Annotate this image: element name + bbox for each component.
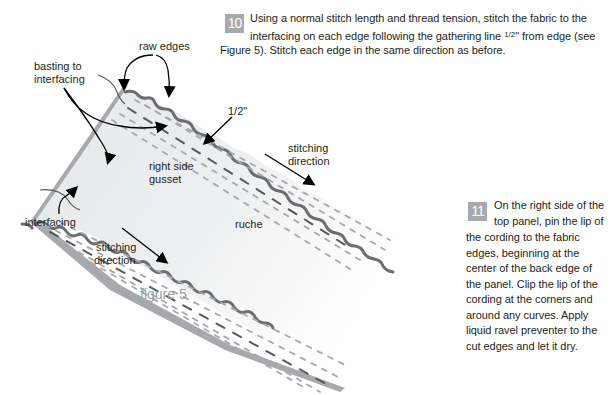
figure-caption: figure 5 (140, 286, 187, 302)
label-basting-line-2: interfacing (34, 73, 85, 85)
label-basting-line-1: basting to (34, 60, 82, 72)
label-half-inch: 1/2" (228, 105, 247, 117)
label-right-side: right side (149, 160, 194, 172)
basting-lead-line-top (98, 75, 125, 104)
figure-5-illustration: raw edges basting to interfacing 1/2" ri… (0, 0, 615, 395)
label-stitching-top-1: stitching (288, 142, 328, 154)
raw-edges-arrow-right (156, 55, 169, 95)
label-stitching-top-2: direction (288, 155, 330, 167)
raw-edges-arrow-left (124, 55, 153, 88)
label-raw-edges: raw edges (139, 40, 190, 52)
label-gusset: gusset (149, 173, 181, 185)
label-ruche: ruche (235, 218, 263, 230)
label-interfacing: interfacing (25, 216, 76, 228)
label-stitching-bottom-1: stitching (96, 241, 136, 253)
label-stitching-bottom-2: direction (94, 254, 136, 266)
